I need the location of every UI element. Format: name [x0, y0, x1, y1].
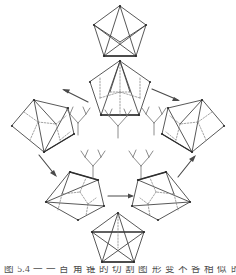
- figure-caption: 图 5.4 一 一 百 角 锥 的 切 割 图 形 变 不 各 相 似 的 各 …: [0, 266, 236, 275]
- arrow-lower-right-to-right: [178, 155, 196, 177]
- pentagon-graph-upper-middle: [89, 60, 151, 116]
- tree-symbol-lower-right: [129, 150, 153, 178]
- diagram-canvas: [0, 0, 236, 275]
- figure-root: 图 5.4 一 一 百 角 锥 的 切 割 图 形 变 不 各 相 似 的 各 …: [0, 0, 236, 275]
- pentagon-graph-lower-right: [131, 171, 191, 221]
- pentagon-graph-right: [161, 99, 225, 153]
- arrow-upper-middle-to-right: [152, 89, 180, 101]
- pentagon-graph-lower-left: [45, 171, 105, 221]
- figure-caption-text: 图 5.4 一 一 百 角 锥 的 切 割 图 形 变 不 各 相 似 的 各 …: [4, 266, 236, 275]
- arrow-lower-left-to-lower-right: [108, 194, 134, 199]
- tree-symbol-lower-left: [81, 150, 105, 178]
- pentagon-graph-left: [11, 99, 75, 153]
- pentagram-graph-bottom: [91, 212, 145, 263]
- arrow-left-to-lower-left: [39, 155, 57, 177]
- arrow-upper-middle-to-left: [62, 89, 88, 102]
- pentagon-graph-top: [93, 5, 147, 57]
